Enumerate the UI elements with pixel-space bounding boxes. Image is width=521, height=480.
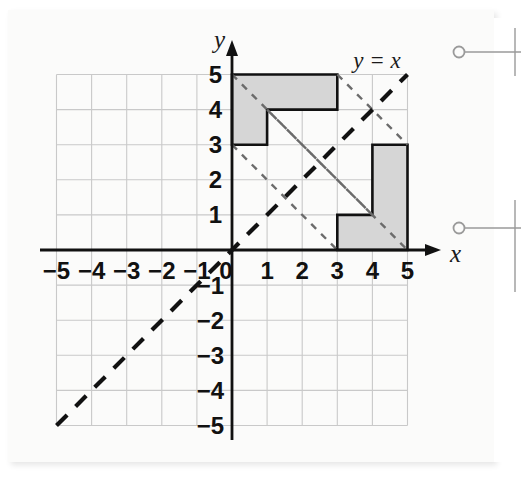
callout-upper-marker	[454, 47, 465, 58]
x-tick--5: −5	[43, 257, 70, 284]
y-tick--4: −4	[197, 377, 225, 404]
x-tick--2: −2	[148, 257, 175, 284]
x-axis-arrowhead	[425, 244, 441, 256]
x-tick-5: 5	[401, 257, 414, 284]
y-ticks-negative: −1 −2 −3 −4 −5	[197, 272, 225, 439]
y-tick-3: 3	[209, 131, 222, 158]
figure-page: y x y = x 0 −5 −4 −3 −2 −1 1 2 3 4 5 1 2…	[0, 0, 521, 480]
equation-label: y = x	[351, 48, 401, 73]
y-ticks-positive: 1 2 3 4 5	[209, 61, 223, 228]
x-tick--4: −4	[78, 257, 106, 284]
y-tick--1: −1	[197, 272, 224, 299]
x-tick--3: −3	[113, 257, 140, 284]
y-tick--5: −5	[197, 412, 224, 439]
x-ticks-negative: −5 −4 −3 −2 −1	[43, 257, 211, 284]
x-tick-4: 4	[366, 257, 380, 284]
y-tick-4: 4	[209, 96, 223, 123]
y-axis-label: y	[211, 26, 226, 53]
x-tick-2: 2	[296, 257, 309, 284]
x-tick-1: 1	[260, 257, 273, 284]
y-tick--2: −2	[197, 307, 224, 334]
y-axis-arrowhead	[226, 40, 238, 56]
y-tick-2: 2	[209, 166, 222, 193]
coordinate-plane-figure: y x y = x 0 −5 −4 −3 −2 −1 1 2 3 4 5 1 2…	[0, 0, 521, 480]
callout-lower	[454, 200, 521, 292]
x-tick-3: 3	[331, 257, 344, 284]
callout-upper	[454, 28, 521, 76]
y-tick-1: 1	[209, 201, 222, 228]
y-tick--3: −3	[197, 342, 224, 369]
object-polygon	[232, 75, 337, 145]
x-axis-label: x	[449, 240, 461, 267]
y-tick-5: 5	[209, 61, 222, 88]
callout-lower-marker	[454, 223, 465, 234]
x-ticks-positive: 1 2 3 4 5	[260, 257, 414, 284]
image-polygon	[337, 145, 407, 250]
